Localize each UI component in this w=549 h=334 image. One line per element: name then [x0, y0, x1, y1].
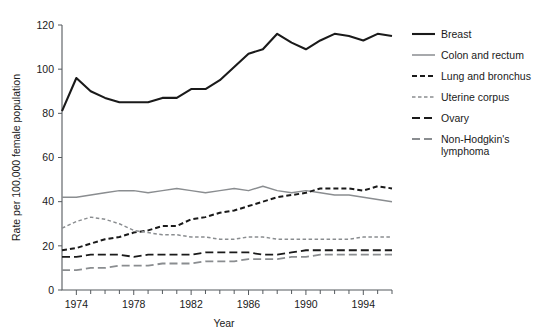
- chart-legend: BreastColon and rectumLung and bronchusU…: [412, 28, 531, 157]
- legend-label-2: Lung and bronchus: [441, 70, 531, 82]
- y-tick-label: 60: [42, 151, 54, 163]
- x-tick-label: 1986: [237, 298, 261, 310]
- legend-label-3: Uterine corpus: [441, 91, 509, 103]
- y-tick-label: 40: [42, 195, 54, 207]
- series-line-3: [62, 217, 392, 239]
- legend-label-5: Non-Hodgkin's: [441, 133, 510, 145]
- legend-label-1: Colon and rectum: [441, 49, 524, 61]
- y-axis-title: Rate per 100,000 female population: [10, 74, 22, 241]
- x-tick-label: 1978: [122, 298, 146, 310]
- line-chart-canvas: 020406080100120197419781982198619901994Y…: [0, 0, 549, 334]
- series-line-2: [62, 186, 392, 250]
- series-line-4: [62, 250, 392, 257]
- x-axis-title: Year: [213, 317, 235, 329]
- series-line-5: [62, 255, 392, 270]
- legend-label-5-line2: lymphoma: [441, 145, 490, 157]
- y-tick-label: 20: [42, 240, 54, 252]
- series-line-0: [62, 34, 392, 111]
- axis-labels: 020406080100120197419781982198619901994Y…: [10, 19, 375, 329]
- x-tick-label: 1982: [179, 298, 203, 310]
- y-tick-label: 120: [36, 19, 54, 31]
- x-tick-label: 1974: [65, 298, 89, 310]
- series-lines: [62, 34, 392, 270]
- y-tick-label: 80: [42, 107, 54, 119]
- legend-label-4: Ovary: [441, 112, 470, 124]
- legend-label-0: Breast: [441, 28, 471, 40]
- x-tick-label: 1994: [352, 298, 376, 310]
- y-tick-label: 0: [48, 284, 54, 296]
- x-tick-label: 1990: [294, 298, 318, 310]
- chart-figure: 020406080100120197419781982198619901994Y…: [0, 0, 549, 334]
- y-tick-label: 100: [36, 63, 54, 75]
